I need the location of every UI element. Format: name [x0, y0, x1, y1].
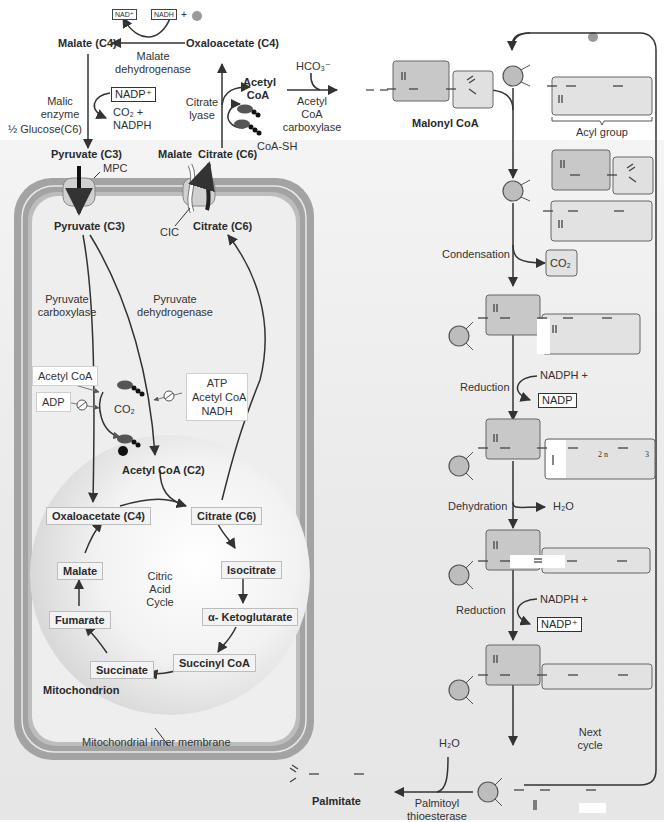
nadp-plus-box: NADP⁺ [111, 87, 156, 102]
pyruvate-c3-cytosol: Pyruvate (C3) [51, 148, 122, 161]
pyruvate-carboxylase-label: Pyruvate carboxylase [37, 293, 97, 319]
pyruvate-c3-matrix: Pyruvate (C3) [54, 220, 125, 233]
label-line: NADPH [113, 119, 152, 132]
citrate-c6-cytosol: Citrate (C6) [198, 148, 257, 161]
label-line: CoA [243, 89, 273, 102]
acyl-brace [552, 117, 652, 125]
palmitoyl-thioesterase-label: Palmitoyl thioesterase [407, 797, 467, 822]
acyl-boxes [393, 61, 655, 689]
label-line: Malate [114, 50, 192, 63]
label-line: Acetyl [243, 76, 273, 89]
label-line: NADH [192, 404, 242, 418]
label-line: Malic [40, 95, 80, 108]
acyl-group-label: Acyl group [576, 126, 628, 139]
condensation-label: Condensation [442, 248, 510, 261]
tca-isocitrate: Isocitrate [221, 561, 282, 579]
label-line: Cycle [140, 596, 180, 609]
inner-membrane-label: Mitochondrial inner membrane [82, 736, 231, 749]
co2-matrix-label: CO₂ [114, 403, 135, 416]
malate-cytosol-label: Malate [158, 148, 192, 161]
pyruvate-dehydrogenase-label: Pyruvate dehydrogenase [137, 293, 213, 319]
hco3-label: HCO₃⁻ [296, 60, 331, 73]
cic-label: CIC [160, 226, 179, 239]
chain-2n-label: 2 n [598, 448, 608, 461]
label-line: CO₂ + [113, 106, 152, 119]
citrate-c6-matrix: Citrate (C6) [193, 220, 252, 233]
nadp-1-box: NADP [538, 393, 577, 408]
label-line: ATP [192, 376, 242, 390]
label-line: thioesterase [407, 810, 467, 822]
tca-succinyl-coa: Succinyl CoA [173, 654, 256, 672]
nadh-box: NADH [151, 9, 177, 20]
malate-dehydrogenase-label: Malate dehydrogenase [114, 50, 192, 76]
malate-c4-cytosol: Malate (C4) [58, 37, 117, 50]
chain-3-label: 3 [645, 448, 649, 461]
label-line: enzyme [40, 108, 80, 121]
cic-transporter [183, 164, 215, 212]
nadph-2-label: NADPH + [540, 593, 588, 606]
half-glucose-label: ½ Glucose(C6) [8, 123, 82, 136]
mpc-label: MPC [103, 162, 127, 175]
acetyl-coa-c2-label: Acetyl CoA (C2) [122, 464, 205, 477]
palmitate-label: Palmitate [312, 795, 361, 808]
oxaloacetate-c4-cytosol: Oxaloacetate (C4) [186, 37, 279, 50]
label-line: Pyruvate [137, 293, 213, 306]
citrate-lyase-label: Citrate lyase [185, 96, 219, 122]
co2-released-label: CO₂ [550, 257, 571, 270]
tca-alpha-ketoglutarate: α- Ketoglutarate [202, 608, 298, 626]
inhibitor-adp-box: ADP [36, 392, 71, 412]
plus-sign: + [181, 8, 187, 21]
nadph-1-label: NADPH + [540, 369, 588, 382]
mitochondrion-label: Mitochondrion [43, 684, 119, 697]
tca-succinate: Succinate [90, 661, 154, 679]
tca-citrate: Citrate (C6) [191, 507, 262, 525]
dehydration-label: Dehydration [448, 500, 507, 513]
label-line: Next [570, 726, 610, 739]
label-line: Pyruvate [37, 293, 97, 306]
acetyl-coa-cytosol: Acetyl CoA [243, 76, 273, 102]
tca-oxaloacetate: Oxaloacetate (C4) [46, 507, 151, 525]
label-line: dehydrogenase [114, 63, 192, 76]
reduction-1-label: Reduction [460, 381, 510, 394]
label-line: Acetyl [282, 95, 342, 108]
label-line: dehydrogenase [137, 306, 213, 319]
label-line: Acid [140, 583, 180, 596]
label-line: carboxylase [282, 121, 342, 134]
label-line: Citric [140, 570, 180, 583]
next-cycle-label: Next cycle [570, 726, 610, 752]
activator-acetyl-coa-box: Acetyl CoA [32, 366, 98, 386]
label-line: Palmitoyl [407, 797, 467, 810]
nad-plus-box: NAD⁺ [112, 9, 137, 20]
pdh-inhibitors-box: ATP Acetyl CoA NADH [186, 373, 248, 421]
label-line: cycle [570, 739, 610, 752]
label-line: Citrate [185, 96, 219, 109]
tca-fumarate: Fumarate [49, 611, 111, 629]
label-line: CoA [282, 108, 342, 121]
malic-enzyme-label: Malic enzyme [40, 95, 80, 121]
acetyl-coa-carboxylase-label: Acetyl CoA carboxylase [282, 95, 342, 134]
label-line: carboxylase [37, 306, 97, 319]
citric-acid-cycle-label: Citric Acid Cycle [140, 570, 180, 609]
h2o-released-label: H₂O [553, 500, 574, 513]
reduction-2-label: Reduction [456, 604, 506, 617]
label-line: Acetyl CoA [192, 390, 242, 404]
coa-sh-label: CoA-SH [257, 140, 297, 153]
nadp-2-box: NADP⁺ [537, 617, 582, 632]
malonyl-coa-label: Malonyl CoA [412, 117, 479, 130]
label-line: lyase [185, 109, 219, 122]
tca-malate: Malate [57, 562, 103, 580]
co2-nadph-label: CO₂ + NADPH [113, 106, 152, 132]
mpc-pointer [94, 172, 100, 178]
h2o-hydrolysis-label: H₂O [439, 737, 460, 750]
